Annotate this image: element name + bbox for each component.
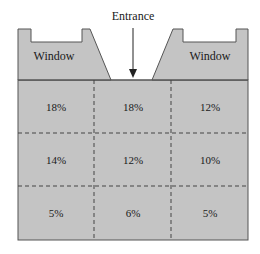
cell-r1-c3: 12% [200,101,220,113]
left-window-label: Window [34,49,75,63]
entrance-arrow-icon [129,69,137,78]
cell-r1-c1: 18% [46,101,66,113]
store-layout-diagram: Entrance Window Window 18% 18% 12% 14% 1… [0,0,260,254]
right-window-label: Window [190,49,231,63]
entrance-label: Entrance [112,9,155,23]
cell-r3-c1: 5% [49,207,64,219]
cell-r2-c1: 14% [46,154,66,166]
cell-r2-c2: 12% [123,154,143,166]
cell-r3-c3: 5% [203,207,218,219]
cell-r2-c3: 10% [200,154,220,166]
cell-r1-c2: 18% [123,101,143,113]
cell-r3-c2: 6% [126,207,141,219]
